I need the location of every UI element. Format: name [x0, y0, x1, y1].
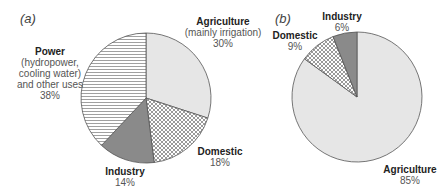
label-a-industry: Industry 14% [95, 166, 155, 188]
label-a-agriculture: Agriculture (mainly irrigation) 30% [168, 16, 278, 49]
label-a-domestic: Domestic 18% [185, 146, 255, 168]
panel-label-a: (a) [20, 11, 36, 26]
label-b-domestic: Domestic 9% [265, 30, 325, 52]
pie-chart-a [81, 33, 211, 163]
label-b-agriculture: Agriculture 85% [375, 164, 445, 186]
label-a-power: Power (hydropower, cooling water) and ot… [10, 46, 90, 101]
